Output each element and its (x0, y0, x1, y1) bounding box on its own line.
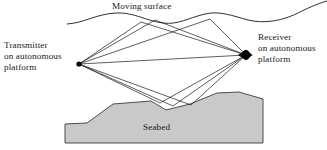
receiver-label: Receiver on autonomous platform (258, 32, 316, 65)
ray-path-surface-bounce-2 (79, 19, 246, 64)
transmitter-label-line-1: Transmitter (4, 40, 62, 51)
receiver-label-line-2: on autonomous (258, 43, 316, 54)
moving-surface-line (67, 1, 327, 24)
seabed-shape (65, 92, 263, 143)
moving-surface-label-text: Moving surface (112, 1, 171, 11)
transmitter-label-line-3: platform (4, 62, 62, 73)
ray-path-surface-bounce-1 (79, 20, 246, 64)
ray-path-direct (79, 55, 246, 64)
seabed-label: Seabed (143, 122, 170, 133)
transmitter-node-marker (76, 61, 81, 66)
transmitter-label-line-2: on autonomous (4, 51, 62, 62)
receiver-label-line-3: platform (258, 54, 316, 65)
acoustic-propagation-diagram: Moving surface Transmitter on autonomous… (0, 0, 327, 150)
moving-surface-label: Moving surface (112, 1, 171, 12)
seabed-label-text: Seabed (143, 122, 170, 132)
receiver-label-line-1: Receiver (258, 32, 316, 43)
transmitter-label: Transmitter on autonomous platform (4, 40, 62, 73)
ray-path-surface-bounce-3 (79, 22, 246, 64)
